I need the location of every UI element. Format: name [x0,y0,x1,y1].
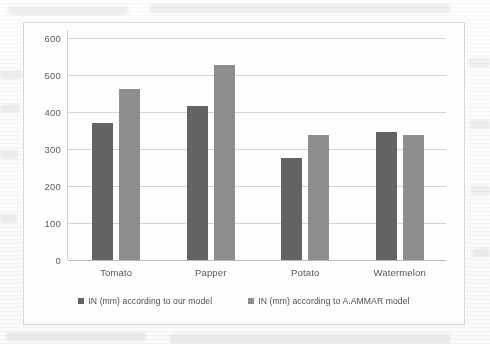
gridline-500: 500 [68,75,446,76]
bar [403,135,424,260]
legend-label: IN (mm) according to A.AMMAR model [258,296,409,306]
gridline-0: 0 [68,260,446,261]
y-axis-tick-label: 600 [45,33,61,44]
y-axis-tick-label: 100 [45,218,61,229]
bar-chart: 6005004003002001000 TomatoPapperPotatoWa… [24,23,464,324]
legend-item: IN (mm) according to A.AMMAR model [248,296,409,306]
category-label-tomato: Tomato [100,267,132,278]
bar [376,132,397,260]
legend-square-marker-icon [78,298,84,304]
legend-label: IN (mm) according to our model [88,296,212,306]
bar [92,123,113,260]
legend-square-marker-icon [248,298,254,304]
category-label-watermelon: Watermelon [374,267,426,278]
y-axis-tick-label: 200 [45,181,61,192]
bar [308,135,329,260]
chart-figure-frame: 6005004003002001000 TomatoPapperPotatoWa… [23,22,465,325]
bar [214,65,235,260]
bar [119,89,140,260]
y-axis-line [67,30,68,260]
bar [187,106,208,260]
legend-item: IN (mm) according to our model [78,296,212,306]
bar [281,158,302,260]
y-axis-tick-label: 300 [45,144,61,155]
category-label-papper: Papper [195,267,227,278]
chart-legend: IN (mm) according to our modelIN (mm) ac… [24,296,464,306]
y-axis-tick-label: 500 [45,70,61,81]
gridline-600: 600 [68,38,446,39]
plot-area: 6005004003002001000 TomatoPapperPotatoWa… [68,38,446,260]
y-axis-tick-label: 400 [45,107,61,118]
y-axis-tick-label: 0 [56,255,61,266]
category-label-potato: Potato [291,267,319,278]
